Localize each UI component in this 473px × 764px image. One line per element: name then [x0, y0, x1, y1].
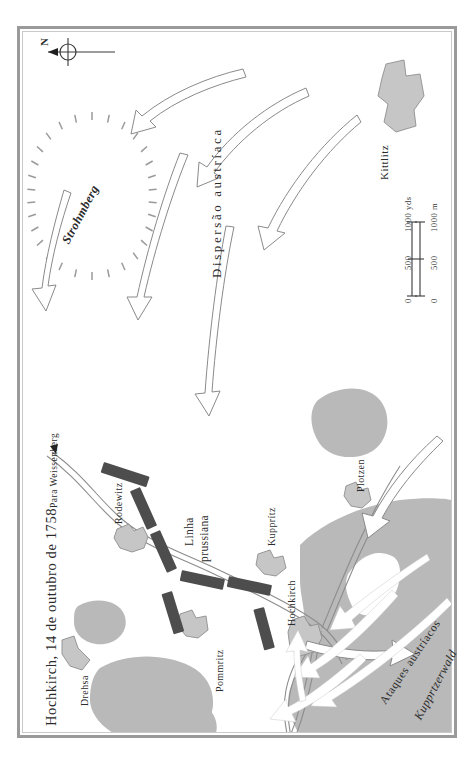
dispersal-arrow-3	[258, 115, 361, 250]
place-label-kupprtiz: Kupprítz	[267, 507, 277, 546]
place-label-rodewitz: Rodewitz	[114, 482, 124, 524]
place-label-drehsa: Drehsa	[80, 675, 90, 706]
austrian-dispersal-label: Dispersão austríaca	[210, 127, 223, 278]
troop-block	[253, 607, 274, 650]
troop-block	[101, 462, 150, 487]
place-label-kittlitz: Kittlitz	[379, 145, 390, 180]
compass-north-label: N	[39, 38, 50, 46]
compass-north-arrowhead	[48, 48, 58, 56]
scale-upper-tick-mid: 500	[404, 255, 413, 270]
scale-upper-tick-end: 1000 yds	[404, 196, 413, 232]
scale-lower-tick-0: 0	[430, 298, 439, 303]
dispersal-arrow-1	[131, 69, 246, 134]
compass-rose	[48, 38, 115, 66]
scale-upper-tick-0: 0	[404, 298, 413, 303]
village-pommritz	[178, 610, 208, 638]
woodland-southwest	[74, 600, 126, 644]
scale-lower-tick-end: 1000 m	[430, 203, 439, 232]
road-destination-label: Para Weissenberg	[50, 433, 60, 508]
scale-lower-tick-mid: 500	[430, 255, 439, 270]
troop-block	[180, 570, 225, 590]
map-geometry	[0, 0, 473, 764]
place-label-pommritz: Pommritz	[215, 649, 225, 692]
village-rodewitz	[114, 524, 148, 552]
village-drehsa	[62, 636, 90, 670]
battle-map: Hochkirch, 14 de outubro de 1758 N Para …	[0, 0, 473, 764]
troop-block	[150, 530, 177, 573]
troop-block	[227, 576, 272, 596]
village-kittlitz	[378, 60, 424, 132]
prussian-line-label-row1: Linha	[184, 517, 196, 546]
troop-block	[130, 487, 157, 530]
page-title: Hochkirch, 14 de outubro de 1758	[44, 508, 59, 726]
place-label-hochkirch: Hochkirch	[287, 580, 297, 626]
prussian-line-label-row2: prussiana	[199, 515, 211, 562]
troop-block	[161, 591, 184, 634]
village-kupprtiz	[256, 550, 286, 576]
dispersal-arrow-4	[127, 153, 188, 320]
woodland-center-east	[311, 388, 387, 457]
dispersal-arrow-6	[32, 190, 71, 311]
place-label-plotzen: Plotzen	[356, 459, 366, 492]
